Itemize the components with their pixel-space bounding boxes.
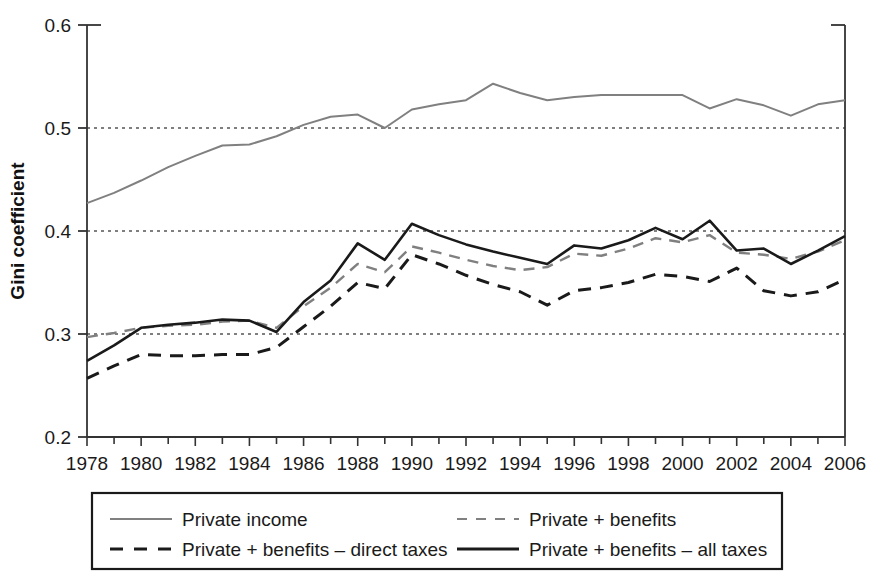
y-tick-label-0.6: 0.6: [45, 15, 71, 36]
x-tick-label-1992: 1992: [445, 453, 487, 474]
x-tick-label-1980: 1980: [120, 453, 162, 474]
x-tick-label-1996: 1996: [553, 453, 595, 474]
y-tick-label-0.5: 0.5: [45, 118, 71, 139]
x-tick-label-1988: 1988: [337, 453, 379, 474]
legend-label-3: Private + benefits – all taxes: [529, 539, 767, 560]
legend-label-1: Private + benefits: [529, 509, 676, 530]
chart-container: 1978198019821984198619881990199219941996…: [0, 0, 872, 583]
y-axis-title: Gini coefficient: [7, 162, 28, 300]
legend-label-2: Private + benefits – direct taxes: [182, 539, 448, 560]
x-tick-label-1978: 1978: [66, 453, 108, 474]
x-tick-label-1998: 1998: [607, 453, 649, 474]
x-tick-label-1986: 1986: [282, 453, 324, 474]
x-tick-label-1984: 1984: [228, 453, 271, 474]
y-tick-label-0.4: 0.4: [45, 221, 72, 242]
x-tick-label-2006: 2006: [824, 453, 866, 474]
y-tick-label-0.3: 0.3: [45, 324, 71, 345]
y-tick-label-0.2: 0.2: [45, 427, 71, 448]
chart-legend: Private incomePrivate + benefitsPrivate …: [92, 493, 782, 569]
x-tick-label-2002: 2002: [716, 453, 758, 474]
x-axis-tick-labels: 1978198019821984198619881990199219941996…: [66, 453, 866, 474]
x-tick-label-1994: 1994: [499, 453, 542, 474]
x-tick-label-1990: 1990: [391, 453, 433, 474]
legend-label-0: Private income: [182, 509, 308, 530]
x-tick-label-2000: 2000: [661, 453, 703, 474]
x-tick-label-2004: 2004: [770, 453, 813, 474]
x-tick-label-1982: 1982: [174, 453, 216, 474]
y-axis-title-text: Gini coefficient: [7, 162, 28, 300]
gini-coefficient-line-chart: 1978198019821984198619881990199219941996…: [0, 0, 872, 583]
